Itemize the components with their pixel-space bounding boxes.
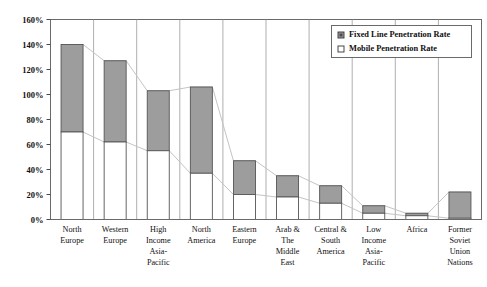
y-axis-tick-label: 20% (27, 190, 44, 200)
x-axis-category-label: Western (102, 225, 129, 234)
bar-segment-fixed-line (363, 206, 385, 214)
x-axis-category-label: The (281, 236, 294, 245)
bar-3 (147, 91, 169, 220)
x-axis-category-label: Central & (314, 225, 347, 234)
bar-segment-mobile (320, 203, 342, 219)
bar-segment-mobile (233, 195, 255, 220)
y-axis-tick-labels: 0%20%40%60%80%100%120%140%160% (22, 15, 43, 225)
y-axis-tick-label: 0% (31, 215, 44, 225)
bar-7 (320, 186, 342, 220)
x-axis-category-label: East (280, 258, 295, 267)
bar-segment-fixed-line (104, 61, 126, 142)
bar-segment-mobile (406, 216, 428, 220)
chart-container: 0%20%40%60%80%100%120%140%160% NorthEuro… (0, 0, 487, 287)
x-axis-category-labels: NorthEuropeWesternEuropeHighIncomeAsia-P… (60, 225, 472, 267)
bar-segment-mobile (104, 142, 126, 220)
x-axis-category-label: Europe (60, 236, 84, 245)
x-axis-category-label: Income (361, 236, 386, 245)
x-axis-category-label: High (150, 225, 166, 234)
x-axis-category-label: America (317, 247, 346, 256)
y-axis-tick-label: 40% (27, 165, 44, 175)
x-axis-category-label: Asia- (149, 247, 167, 256)
x-axis-category-label: North (192, 225, 211, 234)
bar-1 (61, 45, 83, 220)
y-axis-tick-label: 100% (22, 90, 43, 100)
bar-9 (406, 213, 428, 219)
bar-segment-fixed-line (190, 87, 212, 173)
legend-swatch-inner (340, 34, 343, 37)
penetration-rate-stacked-bar-chart: 0%20%40%60%80%100%120%140%160% NorthEuro… (0, 0, 487, 287)
y-axis-tick-label: 120% (22, 65, 43, 75)
bar-segment-fixed-line (449, 192, 471, 218)
legend-label: Fixed Line Penetration Rate (349, 30, 450, 39)
bar-segment-fixed-line (61, 45, 83, 133)
bar-segment-mobile (61, 132, 83, 220)
bar-8 (363, 206, 385, 220)
y-axis-ticks (47, 20, 51, 220)
bar-segment-mobile (363, 213, 385, 219)
y-axis-tick-label: 80% (27, 115, 44, 125)
bar-segment-fixed-line (147, 91, 169, 151)
legend: Fixed Line Penetration RateMobile Penetr… (332, 26, 472, 58)
legend-swatch-mobile (338, 46, 344, 52)
x-axis-category-label: Arab & (275, 225, 300, 234)
bar-segment-mobile (147, 151, 169, 220)
x-axis-category-label: Low (366, 225, 381, 234)
bar-segment-fixed-line (277, 176, 299, 197)
x-axis-category-label: North (62, 225, 81, 234)
bar-segment-fixed-line (233, 161, 255, 195)
x-axis-category-label: Soviet (449, 236, 471, 245)
x-axis-category-label: Europe (103, 236, 127, 245)
x-axis-category-label: Asia- (365, 247, 383, 256)
x-axis-category-label: Nations (447, 258, 472, 267)
bar-segment-fixed-line (320, 186, 342, 204)
x-axis-category-label: Africa (406, 225, 427, 234)
x-axis-category-label: Union (450, 247, 470, 256)
x-axis-category-label: Middle (276, 247, 300, 256)
legend-label: Mobile Penetration Rate (349, 44, 437, 53)
x-axis-category-label: Eastern (232, 225, 257, 234)
x-axis-category-label: Pacific (147, 258, 170, 267)
bar-6 (277, 176, 299, 220)
bar-4 (190, 87, 212, 220)
x-axis-category-label: Income (146, 236, 171, 245)
bar-10 (449, 192, 471, 220)
y-axis-tick-label: 140% (22, 40, 43, 50)
bar-segment-mobile (277, 197, 299, 220)
x-axis-category-label: Europe (233, 236, 257, 245)
x-axis-category-label: Former (448, 225, 472, 234)
x-axis-category-label: America (187, 236, 216, 245)
bar-5 (233, 161, 255, 220)
x-axis-category-label: South (321, 236, 340, 245)
y-axis-tick-label: 160% (22, 15, 43, 25)
bar-segment-mobile (190, 173, 212, 219)
x-axis-category-label: Pacific (362, 258, 385, 267)
y-axis-tick-label: 60% (27, 140, 44, 150)
bar-2 (104, 61, 126, 220)
